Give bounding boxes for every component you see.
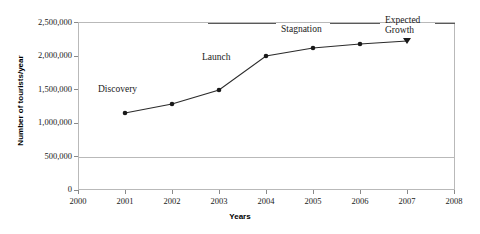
data-point-2004 <box>264 54 269 59</box>
series-layer <box>0 0 480 234</box>
data-point-2005 <box>311 46 316 51</box>
tourism-trend-line <box>125 41 407 113</box>
chart-container: 2,500,000 2,000,000 1,500,000 1,000,000 … <box>0 0 480 234</box>
data-point-2006 <box>358 42 363 47</box>
data-point-2001 <box>123 111 128 116</box>
data-point-2002 <box>170 102 175 107</box>
data-point-2003 <box>217 88 222 93</box>
